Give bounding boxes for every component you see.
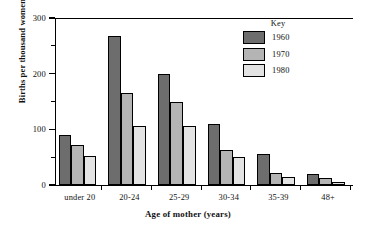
x-tick [151,185,152,190]
legend-title: Key [247,19,309,28]
legend: Key 196019701980 [243,19,333,81]
bar [220,150,233,185]
y-tick-label: 100 [0,125,46,134]
x-tick [101,185,102,190]
legend-swatch [243,31,265,44]
legend-item: 1980 [243,64,333,77]
bar [108,36,121,185]
y-tick-label: 200 [0,70,46,79]
bar [319,178,332,185]
bar [233,157,246,185]
bar [307,174,320,185]
legend-label: 1960 [272,33,290,42]
bar [332,182,345,185]
legend-label: 1970 [272,50,290,59]
bar [71,145,84,185]
bar-chart: Births per thousand women 0100200300 und… [0,0,376,229]
bar [121,93,134,185]
bar [282,177,295,185]
x-axis-title: Age of mother (years) [0,209,376,219]
y-tick-label: 0 [0,181,46,190]
bar [257,154,270,185]
x-tick [250,185,251,190]
bar [158,74,171,185]
x-tick [300,185,301,190]
y-tick-label: 300 [0,14,46,23]
legend-label: 1980 [272,66,290,75]
bar [170,102,183,186]
legend-item: 1970 [243,48,333,61]
bar [84,156,97,185]
legend-item: 1960 [243,31,333,44]
legend-entries: 196019701980 [243,31,333,77]
legend-swatch [243,64,265,77]
x-tick [201,185,202,190]
bar [59,135,72,185]
bar [183,126,196,185]
x-tick [350,185,351,190]
x-category-label: 48+ [295,193,361,202]
bar [133,126,146,185]
x-axis-line [55,185,353,186]
bar [208,124,221,185]
bar [270,173,283,185]
legend-swatch [243,48,265,61]
